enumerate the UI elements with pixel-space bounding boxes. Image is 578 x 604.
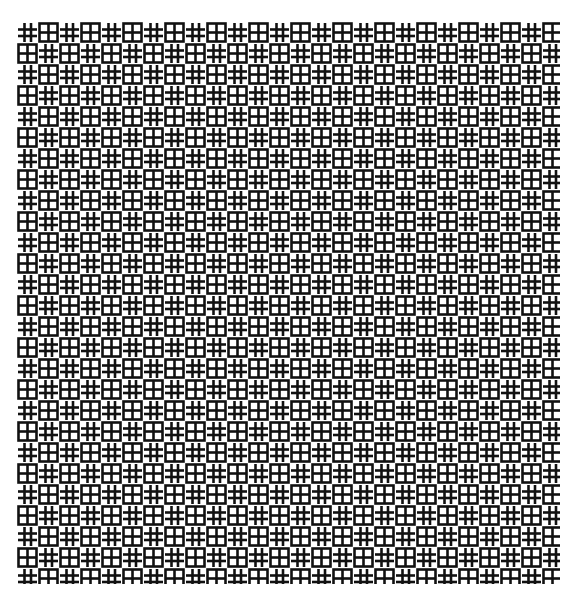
- pattern-canvas: [17, 22, 560, 584]
- lattice-pattern: [17, 22, 560, 584]
